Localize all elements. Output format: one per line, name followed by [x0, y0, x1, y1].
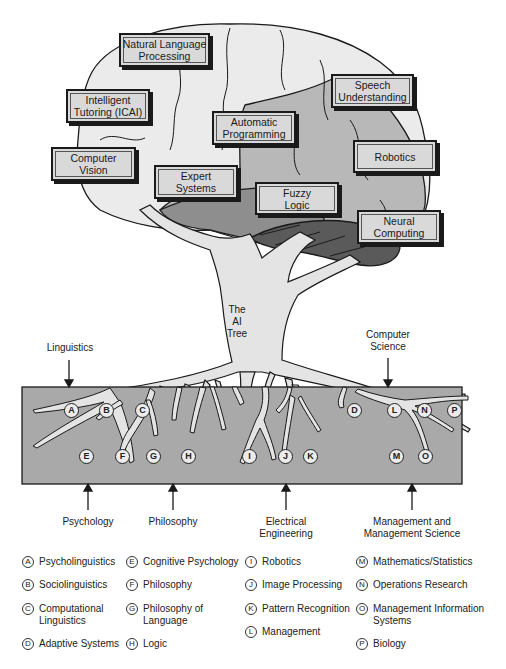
box-label: Speech Understanding — [338, 79, 406, 103]
legend-circle: I — [245, 556, 257, 568]
root-circle-j: J — [278, 449, 293, 464]
legend-item-c: CComputational Linguistics — [22, 603, 142, 627]
legend-text: Logic — [143, 638, 167, 650]
root-circle-o: O — [418, 449, 433, 464]
legend-circle: J — [245, 579, 257, 591]
box-neural-computing: Neural Computing — [357, 210, 441, 244]
root-circle-h: H — [181, 449, 196, 464]
legend-item-h: HLogic — [126, 638, 246, 650]
legend-item-n: NOperations Research — [356, 579, 506, 591]
legend-circle: O — [356, 603, 368, 615]
legend-circle: B — [22, 579, 34, 591]
legend-item-p: PBiology — [356, 638, 506, 650]
box-label: Natural Language Processing — [123, 38, 206, 62]
box-speech-understanding: Speech Understanding — [331, 74, 414, 108]
root-circle-d: D — [347, 403, 362, 418]
root-circle-a: A — [64, 403, 79, 418]
legend-circle: P — [356, 638, 368, 650]
legend-circle: K — [245, 603, 257, 615]
root-circle-b: B — [99, 403, 114, 418]
label-psychology: Psychology — [58, 516, 118, 528]
legend-text: Psycholinguistics — [39, 556, 115, 568]
legend-text: Biology — [373, 638, 406, 650]
box-label: Intelligent Tutoring (ICAI) — [74, 94, 142, 118]
box-label: Automatic Programming — [222, 116, 285, 140]
legend-circle: E — [126, 556, 138, 568]
box-label: Fuzzy Logic — [283, 187, 311, 211]
legend-circle: L — [245, 626, 257, 638]
root-circle-e: E — [79, 449, 94, 464]
box-label: Robotics — [375, 151, 416, 163]
legend-item-j: JImage Processing — [245, 579, 365, 591]
legend-text: Operations Research — [373, 579, 468, 591]
legend-text: Pattern Recognition — [262, 603, 350, 615]
legend-text: Sociolinguistics — [39, 579, 107, 591]
box-robotics: Robotics — [353, 140, 437, 173]
label-computer-science: Computer Science — [355, 329, 421, 353]
box-intelligent-tutoring: Intelligent Tutoring (ICAI) — [66, 89, 150, 123]
legend-circle: G — [126, 603, 138, 615]
legend-circle: A — [22, 556, 34, 568]
legend-text: Mathematics/Statistics — [373, 556, 472, 568]
label-philosophy: Philosophy — [143, 516, 203, 528]
box-fuzzy-logic: Fuzzy Logic — [255, 182, 339, 215]
root-circle-i: I — [242, 449, 257, 464]
legend-item-i: IRobotics — [245, 556, 365, 568]
legend-text: Adaptive Systems — [39, 638, 119, 650]
root-circle-c: C — [135, 403, 150, 418]
legend-text: Management Information Systems — [373, 603, 484, 627]
trunk-label: The AI Tree — [222, 304, 252, 340]
root-circle-l: L — [387, 403, 402, 418]
legend-text: Cognitive Psychology — [143, 556, 239, 568]
legend-circle: D — [22, 638, 34, 650]
label-electrical-engineering: Electrical Engineering — [250, 516, 322, 540]
legend-item-l: LManagement — [245, 626, 365, 638]
root-circle-m: M — [389, 449, 404, 464]
legend-text: Computational Linguistics — [39, 603, 103, 627]
legend-text: Management — [262, 626, 320, 638]
label-management-science: Management and Management Science — [362, 516, 462, 540]
legend-item-e: ECognitive Psychology — [126, 556, 246, 568]
legend-circle: H — [126, 638, 138, 650]
root-circle-g: G — [146, 449, 161, 464]
root-circle-p: P — [447, 403, 462, 418]
legend-item-o: OManagement Information Systems — [356, 603, 506, 627]
legend-item-m: MMathematics/Statistics — [356, 556, 506, 568]
box-natural-language-processing: Natural Language Processing — [119, 33, 210, 67]
label-linguistics: Linguistics — [40, 342, 100, 354]
box-label: Neural Computing — [374, 215, 425, 239]
legend-circle: F — [126, 579, 138, 591]
root-circle-k: K — [303, 449, 318, 464]
box-automatic-programming: Automatic Programming — [212, 111, 296, 145]
legend-circle: N — [356, 579, 368, 591]
root-circle-f: F — [115, 449, 130, 464]
box-label: Computer Vision — [70, 152, 116, 176]
legend-text: Philosophy of Language — [143, 603, 203, 627]
legend-item-k: KPattern Recognition — [245, 603, 365, 615]
box-expert-systems: Expert Systems — [154, 165, 238, 199]
legend-item-g: GPhilosophy of Language — [126, 603, 246, 627]
box-label: Expert Systems — [176, 170, 216, 194]
legend-item-b: BSociolinguistics — [22, 579, 142, 591]
legend-circle: C — [22, 603, 34, 615]
legend-circle: M — [356, 556, 368, 568]
legend-item-d: DAdaptive Systems — [22, 638, 142, 650]
legend-text: Robotics — [262, 556, 301, 568]
legend-text: Image Processing — [262, 579, 342, 591]
legend-text: Philosophy — [143, 579, 192, 591]
legend-item-f: FPhilosophy — [126, 579, 246, 591]
legend-item-a: APsycholinguistics — [22, 556, 142, 568]
root-circle-n: N — [417, 403, 432, 418]
box-computer-vision: Computer Vision — [51, 147, 136, 181]
